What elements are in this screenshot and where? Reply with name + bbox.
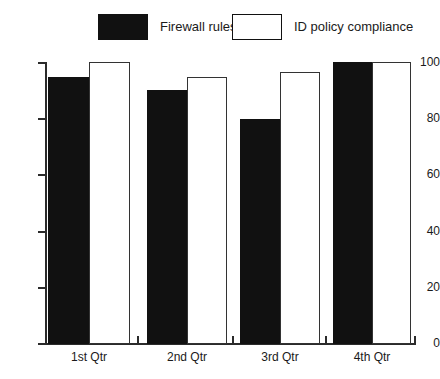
x-tick-4 [414, 336, 416, 344]
y-tick-label-20: 20 [406, 281, 440, 293]
y-tick-label-100: 100 [406, 56, 440, 68]
y-tick-20 [38, 287, 46, 289]
x-label-4th-qtr: 4th Qtr [331, 350, 413, 364]
bar-firewall-rules-4th-qtr [333, 62, 372, 344]
bar-firewall-rules-3rd-qtr [240, 119, 280, 344]
x-tick-3 [325, 336, 327, 344]
bar-firewall-rules-1st-qtr [48, 77, 89, 344]
bar-chart: Firewall rules ID policy compliance 100 … [0, 0, 440, 379]
y-tick-80 [38, 118, 46, 120]
bar-id-policy-compliance-2nd-qtr [187, 77, 227, 344]
y-tick-40 [38, 231, 46, 233]
y-tick-60 [38, 174, 46, 176]
y-tick-label-80: 80 [406, 112, 440, 124]
y-axis-line [45, 62, 47, 344]
x-label-1st-qtr: 1st Qtr [48, 350, 130, 364]
x-tick-1 [137, 336, 139, 344]
x-label-3rd-qtr: 3rd Qtr [239, 350, 321, 364]
y-tick-0 [38, 343, 46, 345]
bar-id-policy-compliance-3rd-qtr [280, 72, 320, 344]
y-tick-label-40: 40 [406, 225, 440, 237]
bar-id-policy-compliance-1st-qtr [89, 62, 130, 344]
plot-area: 100 80 60 40 20 0 1st Qtr 2nd Qtr 3rd Qt… [0, 0, 440, 379]
y-tick-100 [38, 62, 46, 64]
x-tick-2 [232, 336, 234, 344]
bar-firewall-rules-2nd-qtr [147, 90, 187, 344]
y-tick-label-0: 0 [406, 337, 440, 349]
x-label-2nd-qtr: 2nd Qtr [146, 350, 228, 364]
y-tick-label-60: 60 [406, 168, 440, 180]
bar-id-policy-compliance-4th-qtr [372, 62, 411, 344]
